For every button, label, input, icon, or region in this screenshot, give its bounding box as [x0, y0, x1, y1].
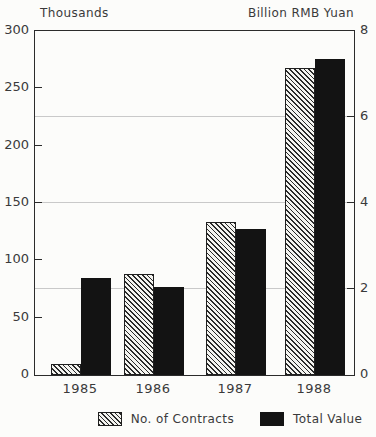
- bar-total-value-1988: [315, 59, 345, 375]
- right-tick-label: 6: [360, 109, 368, 123]
- plot-area: [34, 30, 355, 376]
- legend-item-contracts: No. of Contracts: [98, 412, 234, 426]
- left-tick-label: 0: [0, 367, 29, 381]
- bar-contracts-1988: [285, 68, 315, 375]
- x-axis-label-1987: 1987: [205, 381, 265, 396]
- left-axis-title: Thousands: [40, 6, 109, 20]
- right-axis-title: Billion RMB Yuan: [248, 6, 354, 20]
- right-tick-label: 4: [360, 195, 368, 209]
- legend-item-total-value: Total Value: [260, 412, 362, 426]
- legend-label-total-value: Total Value: [293, 412, 362, 426]
- left-tick-label: 300: [0, 23, 29, 37]
- right-tick-label: 2: [360, 281, 368, 295]
- right-tick-label: 8: [360, 23, 368, 37]
- bar-contracts-1986: [124, 274, 154, 375]
- right-axis-tick: [347, 288, 354, 289]
- solid-swatch-icon: [260, 412, 284, 426]
- left-axis-tick: [35, 317, 42, 318]
- x-axis-label-1986: 1986: [123, 381, 183, 396]
- bar-total-value-1985: [81, 278, 111, 375]
- left-axis-tick: [35, 145, 42, 146]
- left-tick-label: 100: [0, 252, 29, 266]
- bar-contracts-1985: [51, 364, 81, 375]
- bar-total-value-1986: [154, 287, 184, 375]
- x-axis-label-1988: 1988: [284, 381, 344, 396]
- bar-contracts-1987: [206, 222, 236, 375]
- right-tick-label: 0: [360, 367, 368, 381]
- left-tick-label: 200: [0, 138, 29, 152]
- hatched-swatch-icon: [98, 412, 122, 426]
- right-axis-tick: [347, 116, 354, 117]
- left-tick-label: 250: [0, 80, 29, 94]
- left-tick-label: 50: [0, 310, 29, 324]
- left-axis-tick: [35, 259, 42, 260]
- left-axis-tick: [35, 202, 42, 203]
- legend: No. of Contracts Total Value: [92, 408, 368, 430]
- right-axis-tick: [347, 202, 354, 203]
- bar-total-value-1987: [236, 229, 266, 375]
- bar-chart: Thousands Billion RMB Yuan No. of Contra…: [0, 0, 376, 437]
- left-axis-tick: [35, 87, 42, 88]
- x-axis-label-1985: 1985: [50, 381, 110, 396]
- left-tick-label: 150: [0, 195, 29, 209]
- legend-label-contracts: No. of Contracts: [131, 412, 234, 426]
